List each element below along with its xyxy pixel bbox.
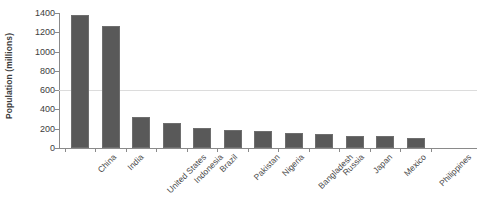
bar bbox=[71, 15, 89, 148]
y-axis-tick-mark bbox=[55, 148, 59, 149]
y-axis-tick-mark bbox=[55, 71, 59, 72]
bar bbox=[163, 123, 181, 148]
y-axis-tick-mark bbox=[55, 32, 59, 33]
y-axis-tick-label: 800 bbox=[40, 66, 55, 76]
bar bbox=[254, 131, 272, 148]
y-axis-tick-mark bbox=[55, 52, 59, 53]
x-axis-category-label: Philippines bbox=[437, 152, 473, 188]
x-axis-category-label: Mexico bbox=[402, 152, 428, 178]
y-axis-tick-labels: 0200400600800100012001400 bbox=[18, 8, 59, 153]
bar bbox=[315, 134, 333, 148]
x-axis-category-label: Nigeria bbox=[280, 152, 306, 178]
y-axis-title: Population (millions) bbox=[0, 0, 18, 152]
bar bbox=[376, 136, 394, 148]
y-axis-tick-label: 400 bbox=[40, 104, 55, 114]
bar bbox=[224, 130, 242, 148]
bar bbox=[346, 136, 364, 148]
y-axis-tick-mark bbox=[55, 129, 59, 130]
x-axis-category-label: China bbox=[96, 152, 119, 175]
y-axis-title-text: Population (millions) bbox=[4, 33, 14, 119]
x-axis-category-label: India bbox=[125, 152, 145, 172]
gridline bbox=[59, 90, 477, 91]
y-axis-tick-label: 600 bbox=[40, 85, 55, 95]
y-axis-tick-mark bbox=[55, 13, 59, 14]
y-axis-line bbox=[59, 13, 60, 148]
bar bbox=[193, 128, 211, 148]
x-axis-category-label: Japan bbox=[370, 152, 393, 175]
bar bbox=[285, 133, 303, 148]
y-axis-tick-label: 1400 bbox=[35, 8, 55, 18]
y-axis-tick-label: 200 bbox=[40, 124, 55, 134]
bar bbox=[102, 26, 120, 148]
y-axis-tick-label: 1000 bbox=[35, 47, 55, 57]
x-axis-line bbox=[59, 148, 477, 149]
x-axis-category-label: Pakistan bbox=[251, 152, 281, 182]
y-axis-tick-mark bbox=[55, 109, 59, 110]
y-axis-tick-label: 1200 bbox=[35, 27, 55, 37]
bar bbox=[132, 117, 150, 148]
plot-area bbox=[59, 13, 477, 148]
population-bar-chart: Population (millions) 020040060080010001… bbox=[0, 0, 483, 211]
x-axis-category-labels: ChinaIndiaUnited StatesIndonesiaBrazilPa… bbox=[59, 152, 483, 211]
bar bbox=[407, 138, 425, 148]
